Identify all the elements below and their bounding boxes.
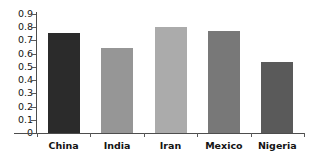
bar[interactable] [261, 62, 293, 133]
bar-chart: 0.90.80.70.60.50.40.30.20.10 ChinaIndiaI… [0, 0, 309, 160]
bar[interactable] [48, 33, 80, 133]
bar[interactable] [155, 27, 187, 133]
x-tick-mark [90, 133, 91, 137]
x-tick-mark [304, 133, 305, 137]
bar[interactable] [101, 48, 133, 133]
x-tick-mark [37, 133, 38, 137]
x-tick-mark [197, 133, 198, 137]
bars-group [0, 0, 309, 133]
x-tick-mark [251, 133, 252, 137]
x-axis-line [14, 133, 304, 134]
bar[interactable] [208, 31, 240, 133]
x-axis-label: Nigeria [237, 140, 309, 152]
x-tick-mark [144, 133, 145, 137]
